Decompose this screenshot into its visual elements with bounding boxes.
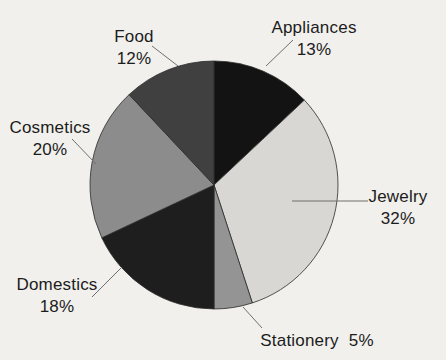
pie-slices [90,61,338,309]
label-stationery-pct: 5% [349,331,374,350]
label-cosmetics-pct: 20% [9,139,90,161]
label-domestics-name: Domestics [16,274,97,296]
label-appliances: Appliances 13% [271,17,356,61]
leader-line-food [152,46,178,66]
label-stationery: Stationery 5% [260,330,373,352]
label-appliances-name: Appliances [271,17,356,39]
label-jewelry-pct: 32% [368,208,427,230]
label-cosmetics-name: Cosmetics [9,117,90,139]
label-domestics: Domestics 18% [16,274,97,318]
leader-line-stationery [243,307,262,328]
label-jewelry-name: Jewelry [368,186,427,208]
label-food-name: Food [114,26,154,48]
label-cosmetics: Cosmetics 20% [9,117,90,161]
pie-chart-figure: Appliances 13% Jewelry 32% Stationery 5%… [0,0,446,360]
label-domestics-pct: 18% [16,296,97,318]
label-appliances-pct: 13% [271,39,356,61]
label-food: Food 12% [114,26,154,70]
label-jewelry: Jewelry 32% [368,186,427,230]
label-food-pct: 12% [114,48,154,70]
label-stationery-name: Stationery [260,331,339,350]
